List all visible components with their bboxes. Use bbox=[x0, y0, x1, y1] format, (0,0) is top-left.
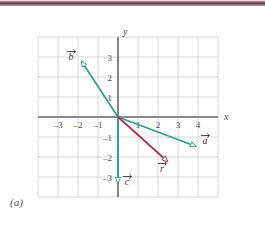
x-tick-label: 4 bbox=[196, 120, 201, 130]
vector-label-text: b bbox=[69, 51, 74, 62]
x-tick-label: –2 bbox=[73, 120, 83, 130]
vector-label-b: b bbox=[67, 50, 76, 62]
y-tick-label: –3 bbox=[102, 173, 113, 183]
vector-label-text: r bbox=[160, 163, 164, 174]
y-tick-label: 3 bbox=[108, 53, 113, 63]
vector-label-c: c bbox=[123, 175, 132, 187]
vector-label-a: a bbox=[201, 134, 210, 146]
vector-diagram-figure: –3–2–11234321–1–2–3 xy bacr (a) bbox=[0, 0, 265, 229]
y-tick-label: –2 bbox=[102, 153, 112, 163]
vector-label-text: a bbox=[203, 135, 208, 146]
vector-arrow-b bbox=[82, 62, 118, 117]
figure-caption: (a) bbox=[10, 196, 23, 208]
vector-label-text: c bbox=[125, 176, 130, 187]
vector-label-r: r bbox=[158, 162, 167, 174]
x-axis-label: x bbox=[223, 111, 229, 122]
y-tick-label: –1 bbox=[102, 133, 112, 143]
x-tick-label: 2 bbox=[156, 120, 161, 130]
y-axis-label: y bbox=[122, 26, 128, 37]
axis-lines bbox=[38, 37, 218, 197]
x-tick-label: 3 bbox=[176, 120, 181, 130]
x-tick-label: –1 bbox=[93, 120, 103, 130]
y-tick-label: 2 bbox=[108, 73, 113, 83]
vector-plot-svg: –3–2–11234321–1–2–3 xy bacr bbox=[0, 0, 265, 229]
x-tick-label: –3 bbox=[53, 120, 64, 130]
